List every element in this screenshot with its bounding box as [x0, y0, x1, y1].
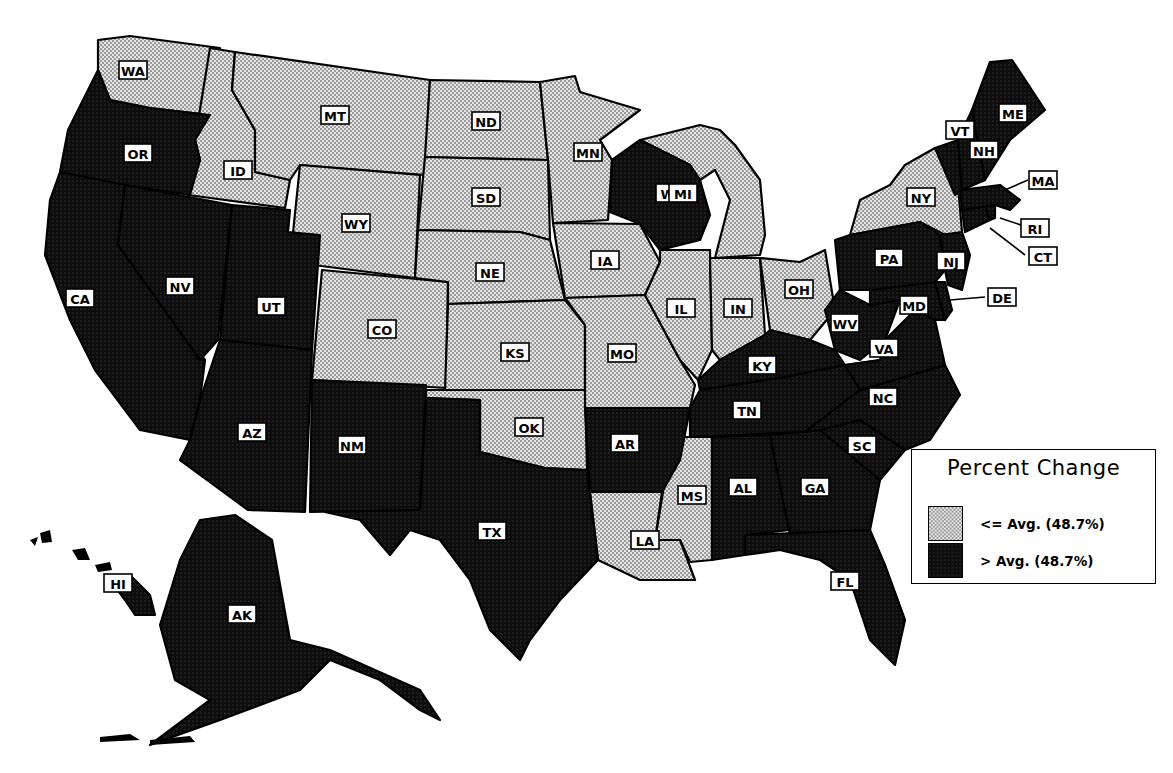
- svg-text:NH: NH: [973, 144, 995, 159]
- state-label-ak: AK: [228, 605, 256, 623]
- swatch-light-dotted: [928, 506, 963, 541]
- state-label-nh: NH: [970, 141, 998, 159]
- state-label-il: IL: [667, 299, 695, 317]
- state-label-md: MD: [900, 296, 928, 314]
- svg-text:OR: OR: [127, 147, 148, 162]
- state-label-nd: ND: [472, 112, 500, 130]
- state-label-mi: MI: [669, 184, 697, 202]
- svg-text:VA: VA: [874, 342, 893, 357]
- state-label-tn: TN: [733, 401, 761, 419]
- svg-text:AL: AL: [734, 481, 752, 496]
- svg-text:MT: MT: [324, 109, 346, 124]
- state-label-mo: MO: [608, 344, 636, 362]
- svg-text:CT: CT: [1034, 250, 1053, 265]
- state-ak: [150, 515, 440, 745]
- svg-text:WY: WY: [344, 217, 368, 232]
- state-label-ny: NY: [907, 188, 935, 206]
- state-nm: [310, 380, 426, 512]
- svg-text:MD: MD: [902, 299, 926, 314]
- state-label-ct: CT: [1029, 247, 1057, 265]
- state-label-tx: TX: [478, 522, 506, 540]
- svg-text:AR: AR: [615, 437, 635, 452]
- svg-text:IA: IA: [598, 254, 613, 269]
- state-label-me: ME: [999, 104, 1027, 122]
- svg-text:KY: KY: [752, 359, 772, 374]
- state-label-sd: SD: [472, 188, 500, 206]
- state-label-co: CO: [368, 320, 396, 338]
- svg-text:WV: WV: [833, 317, 857, 332]
- state-label-nj: NJ: [937, 252, 965, 270]
- svg-text:PA: PA: [880, 252, 898, 267]
- svg-text:IL: IL: [674, 302, 687, 317]
- svg-text:WA: WA: [121, 64, 145, 79]
- state-label-ms: MS: [678, 486, 706, 504]
- svg-text:AZ: AZ: [242, 426, 262, 441]
- state-label-ma: MA: [1029, 171, 1057, 189]
- state-label-ri: RI: [1021, 219, 1049, 237]
- svg-text:VT: VT: [951, 124, 970, 139]
- legend-item-high: > Avg. (48.7%): [928, 543, 1093, 578]
- swatch-dark-dotted: [928, 543, 963, 578]
- state-label-vt: VT: [946, 121, 974, 139]
- state-label-oh: OH: [785, 280, 813, 298]
- legend-label-high: > Avg. (48.7%): [980, 553, 1093, 569]
- svg-text:AK: AK: [232, 608, 253, 623]
- legend-item-low: <= Avg. (48.7%): [928, 506, 1105, 541]
- state-label-ok: OK: [515, 418, 543, 436]
- state-label-wa: WA: [119, 61, 147, 79]
- state-label-pa: PA: [875, 249, 903, 267]
- state-label-in: IN: [724, 299, 752, 317]
- state-label-id: ID: [224, 161, 252, 179]
- svg-text:SD: SD: [476, 191, 496, 206]
- svg-text:MO: MO: [610, 347, 634, 362]
- svg-text:TN: TN: [737, 404, 757, 419]
- svg-text:MS: MS: [681, 489, 703, 504]
- state-label-la: LA: [631, 531, 659, 549]
- svg-text:SC: SC: [853, 439, 872, 454]
- state-label-sc: SC: [848, 436, 876, 454]
- state-label-nm: NM: [338, 436, 366, 454]
- svg-text:NC: NC: [873, 391, 893, 406]
- state-label-wy: WY: [342, 214, 370, 232]
- hawaii-small-islands: [30, 530, 112, 572]
- svg-text:NE: NE: [480, 266, 500, 281]
- svg-text:LA: LA: [636, 534, 654, 549]
- svg-text:IN: IN: [730, 302, 746, 317]
- svg-text:MN: MN: [576, 146, 600, 161]
- aleutian-islands: [100, 734, 195, 745]
- state-label-va: VA: [870, 339, 898, 357]
- state-label-ut: UT: [257, 297, 285, 315]
- state-label-ar: AR: [611, 434, 639, 452]
- svg-text:MA: MA: [1032, 174, 1055, 189]
- legend-title: Percent Change: [912, 456, 1155, 480]
- svg-text:ID: ID: [230, 164, 246, 179]
- svg-text:FL: FL: [836, 575, 853, 590]
- state-label-az: AZ: [238, 423, 266, 441]
- svg-text:CO: CO: [372, 323, 393, 338]
- svg-text:TX: TX: [483, 525, 502, 540]
- state-label-de: DE: [988, 288, 1016, 306]
- state-label-mt: MT: [321, 106, 349, 124]
- svg-text:DE: DE: [992, 291, 1012, 306]
- state-label-wv: WV: [831, 314, 859, 332]
- us-choropleth-map: WAORCAIDNVUTAZMTWYCONMNDSDNEKSOKTXMNIAMO…: [0, 0, 1173, 773]
- svg-text:OH: OH: [788, 283, 810, 298]
- svg-text:RI: RI: [1028, 222, 1043, 237]
- svg-text:NM: NM: [340, 439, 364, 454]
- svg-text:GA: GA: [805, 481, 826, 496]
- state-label-ca: CA: [66, 289, 94, 307]
- svg-text:HI: HI: [110, 577, 126, 592]
- state-fl: [745, 530, 905, 665]
- state-label-al: AL: [729, 478, 757, 496]
- legend-label-low: <= Avg. (48.7%): [980, 516, 1105, 532]
- state-label-fl: FL: [831, 572, 859, 590]
- state-label-ia: IA: [591, 251, 619, 269]
- svg-text:ME: ME: [1002, 107, 1024, 122]
- state-ma: [960, 185, 1020, 210]
- legend: Percent Change <= Avg. (48.7%) > Avg. (4…: [911, 449, 1156, 584]
- svg-text:NV: NV: [170, 280, 191, 295]
- state-label-ne: NE: [476, 263, 504, 281]
- state-label-nc: NC: [869, 388, 897, 406]
- state-label-nv: NV: [166, 277, 194, 295]
- state-label-ga: GA: [801, 478, 829, 496]
